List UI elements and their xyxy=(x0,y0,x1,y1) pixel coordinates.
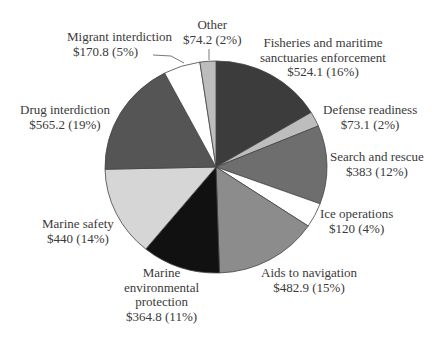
label-fisheries-name-2: sanctuaries enforcement xyxy=(260,51,386,66)
label-aids-name: Aids to navigation xyxy=(261,266,357,281)
label-fisheries-name-1: Fisheries and maritime xyxy=(260,36,386,51)
label-ice-value: $120 (4%) xyxy=(320,222,393,237)
label-safety: Marine safety $440 (14%) xyxy=(42,217,114,246)
label-defense-name: Defense readiness xyxy=(323,103,417,118)
label-defense: Defense readiness $73.1 (2%) xyxy=(323,103,417,132)
label-other-name: Other xyxy=(183,18,242,33)
label-other: Other $74.2 (2%) xyxy=(183,18,242,47)
label-drug: Drug interdiction $565.2 (19%) xyxy=(20,103,110,132)
label-environmental: Marine environmental protection $364.8 (… xyxy=(124,266,199,324)
label-environmental-name-1: Marine xyxy=(124,266,199,281)
label-other-value: $74.2 (2%) xyxy=(183,33,242,48)
label-migrant-name: Migrant interdiction xyxy=(67,30,172,45)
label-ice: Ice operations $120 (4%) xyxy=(320,207,393,236)
label-drug-name: Drug interdiction xyxy=(20,103,110,118)
label-search-value: $383 (12%) xyxy=(330,165,424,180)
label-defense-value: $73.1 (2%) xyxy=(323,118,417,133)
label-aids: Aids to navigation $482.9 (15%) xyxy=(261,266,357,295)
label-fisheries: Fisheries and maritime sanctuaries enfor… xyxy=(260,36,386,80)
label-ice-name: Ice operations xyxy=(320,207,393,222)
label-environmental-name-3: protection xyxy=(124,295,199,310)
label-safety-name: Marine safety xyxy=(42,217,114,232)
label-fisheries-value: $524.1 (16%) xyxy=(260,65,386,80)
label-environmental-name-2: environmental xyxy=(124,281,199,296)
label-migrant: Migrant interdiction $170.8 (5%) xyxy=(67,30,172,59)
label-environmental-value: $364.8 (11%) xyxy=(124,310,199,325)
label-drug-value: $565.2 (19%) xyxy=(20,118,110,133)
label-search: Search and rescue $383 (12%) xyxy=(330,150,424,179)
label-migrant-value: $170.8 (5%) xyxy=(67,45,138,60)
label-search-name: Search and rescue xyxy=(330,150,424,165)
pie-slices xyxy=(105,61,327,273)
label-aids-value: $482.9 (15%) xyxy=(261,281,357,296)
label-safety-value: $440 (14%) xyxy=(42,232,114,247)
